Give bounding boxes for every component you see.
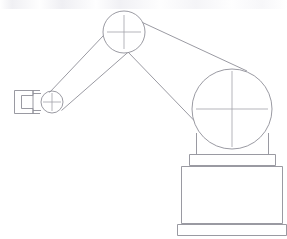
forearm-lower-edge: [62, 47, 135, 111]
elbow-joint-group: [103, 11, 145, 53]
forearm-upper-edge: [50, 27, 113, 93]
wrist-joint-group: [41, 91, 63, 113]
robotic-arm-drawing: [0, 0, 287, 239]
gripper-group: [15, 91, 42, 114]
gripper-wrist-plate: [33, 91, 41, 114]
collar-plate: [190, 155, 276, 166]
upper-arm-upper-edge: [143, 23, 248, 72]
drawing-canvas: [0, 0, 287, 239]
shoulder-body-group: [192, 69, 272, 149]
floor-plate: [178, 225, 287, 236]
gripper-upper-jaw: [22, 91, 34, 114]
base-column: [182, 167, 283, 224]
